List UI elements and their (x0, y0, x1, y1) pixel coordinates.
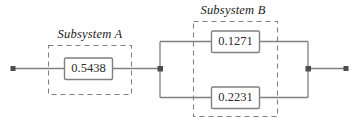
block-b1-value: 0.1271 (218, 34, 252, 48)
subsystem-a-label: Subsystem A (58, 27, 123, 41)
block-a1-value: 0.5438 (71, 61, 105, 75)
subsystem-b-label: Subsystem B (200, 3, 265, 17)
junction-merge-dot (306, 66, 312, 72)
block-b2-value: 0.2231 (218, 90, 252, 104)
reliability-block-diagram: 0.5438 0.1271 0.2231 Subsystem A Subsyst… (0, 0, 358, 125)
terminal-right-dot (344, 66, 349, 71)
diagram-canvas: 0.5438 0.1271 0.2231 Subsystem A Subsyst… (0, 0, 358, 125)
junction-split-dot (158, 66, 164, 72)
terminal-left-dot (11, 66, 16, 71)
